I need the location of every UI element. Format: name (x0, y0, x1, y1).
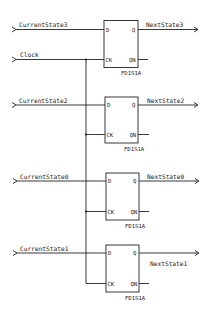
input-port-arrow-icon (12, 57, 16, 62)
input-port-arrow-icon (13, 179, 17, 184)
pin-ck: CK (106, 57, 113, 63)
cell-name: FD1S1A (121, 70, 142, 76)
cell-name: FD1S1A (125, 295, 146, 301)
output-label: NextState2 (147, 97, 185, 104)
output-label: NextState1 (150, 260, 188, 267)
input-label: CurrentState3 (19, 21, 68, 28)
pin-qn: QN (130, 132, 137, 138)
pin-ck: CK (108, 209, 115, 215)
input-port-arrow-icon (12, 103, 16, 108)
pin-qn: QN (129, 57, 136, 63)
clock-label: Clock (20, 51, 39, 58)
pin-qn: QN (131, 281, 138, 287)
input-label: CurrentState0 (20, 173, 69, 180)
output-label: NextState3 (146, 21, 184, 28)
input-label: CurrentState2 (19, 97, 68, 104)
pin-ck: CK (108, 281, 115, 287)
input-port-arrow-icon (12, 27, 16, 32)
clock-bus (86, 60, 106, 284)
schematic-canvas: Clock CurrentState3 D Q CK QN NextState3… (0, 0, 213, 318)
input-port-arrow-icon (13, 251, 17, 256)
junction-dot-icon (85, 210, 87, 212)
cell-name: FD1S1A (125, 223, 146, 229)
pin-qn: QN (131, 209, 138, 215)
flipflop-state3: CurrentState3 D Q CK QN NextState3 FD1S1… (12, 21, 198, 77)
flipflop-state0: CurrentState0 D Q CK QN NextState0 FD1S1… (13, 173, 199, 230)
cell-name: FD1S1A (124, 146, 145, 152)
input-label: CurrentState1 (20, 245, 69, 252)
output-label: NextState0 (147, 173, 185, 180)
flipflop-state1: CurrentState1 D Q CK QN NextState1 FD1S1… (13, 245, 199, 301)
clock-port: Clock (12, 51, 105, 62)
flipflop-state2: CurrentState2 D Q CK QN NextState2 FD1S1… (12, 97, 198, 153)
junction-dot-icon (85, 133, 87, 135)
pin-ck: CK (107, 132, 114, 138)
junction-dot-icon (85, 58, 87, 60)
